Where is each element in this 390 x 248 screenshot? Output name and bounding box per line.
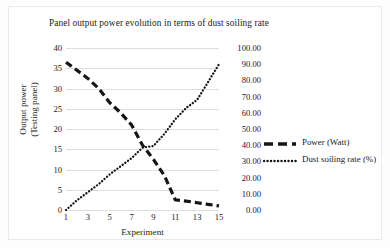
legend-dashed-line-icon [263, 136, 297, 148]
legend-item-label: Dust soiling rate (%) [302, 154, 376, 164]
legend-dotted-line-icon [263, 153, 297, 165]
legend-item-label: Power (Watt) [302, 137, 349, 147]
x-axis-tick-label: 1 [64, 212, 68, 222]
y-axis-right-tick-label: 20.00 [223, 173, 261, 183]
y-axis-left-tick-label: 30 [53, 84, 62, 94]
legend: Power (Watt)Dust soiling rate (%) [263, 133, 390, 167]
y-axis-right-tick-label: 10.00 [223, 189, 261, 199]
y-axis-left-tick-label: 0 [58, 205, 62, 215]
y-axis-left-tick-label: 25 [53, 104, 62, 114]
legend-item[interactable]: Power (Watt) [263, 133, 390, 150]
series-line [66, 62, 219, 206]
y-axis-right-tick-label: 0.00 [223, 205, 261, 215]
y-axis-title-line-2: (Testing panel) [28, 62, 39, 158]
y-axis-right-tick-label: 30.00 [223, 156, 261, 166]
y-axis-right-tick-label: 40.00 [223, 140, 261, 150]
x-axis-tick-label: 11 [171, 212, 179, 222]
plot-area [66, 48, 219, 210]
y-axis-right-tick-label: 100.00 [223, 43, 261, 53]
y-axis-left-tick-label: 5 [58, 185, 62, 195]
y-axis-left-tick-label: 10 [53, 165, 62, 175]
x-axis-tick-labels: 13579111315 [66, 212, 219, 226]
x-axis-tick-label: 7 [129, 212, 133, 222]
chart-frame: Panel output power evolution in terms of… [8, 6, 382, 240]
gridline [66, 210, 219, 211]
x-axis-tick-label: 15 [215, 212, 224, 222]
y-axis-left-tick-labels: 0510152025303540 [42, 48, 62, 210]
y-axis-right-tick-label: 60.00 [223, 108, 261, 118]
x-axis-tick-label: 5 [108, 212, 112, 222]
y-axis-right-tick-label: 50.00 [223, 124, 261, 134]
x-axis-title: Experiment [66, 227, 219, 237]
y-axis-right-tick-label: 90.00 [223, 59, 261, 69]
series-layer [66, 48, 219, 210]
y-axis-title-line-1: Output power [18, 62, 29, 158]
y-axis-right-tick-label: 70.00 [223, 92, 261, 102]
chart-title: Panel output power evolution in terms of… [49, 18, 349, 28]
y-axis-right-tick-label: 80.00 [223, 75, 261, 85]
y-axis-left-tick-label: 35 [53, 63, 62, 73]
y-axis-right-tick-labels: 0.0010.0020.0030.0040.0050.0060.0070.008… [223, 48, 263, 210]
y-axis-left-tick-label: 15 [53, 144, 62, 154]
chart-screenshot: Panel output power evolution in terms of… [0, 0, 390, 248]
y-axis-left-tick-label: 20 [53, 124, 62, 134]
y-axis-left-tick-label: 40 [53, 43, 62, 53]
x-axis-tick-label: 13 [193, 212, 202, 222]
x-axis-tick-label: 3 [86, 212, 90, 222]
series-line [66, 64, 219, 210]
y-axis-title: Output power (Testing panel) [18, 62, 39, 158]
x-axis-tick-label: 9 [151, 212, 155, 222]
legend-item[interactable]: Dust soiling rate (%) [263, 150, 390, 167]
